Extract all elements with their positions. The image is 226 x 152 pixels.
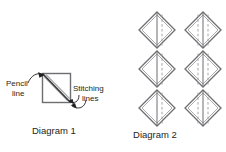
figure-root: Pencil line Stitching lines Diagram 1 — [0, 0, 226, 152]
diagram-2-group: Diagram 2 — [133, 12, 221, 140]
diagram-2-caption: Diagram 2 — [133, 129, 177, 140]
diamond-r1c1 — [139, 12, 175, 48]
diagram-1-caption: Diagram 1 — [32, 125, 76, 136]
stitching-label-line1: Stitching — [73, 84, 104, 93]
diamond-r3c1 — [139, 90, 175, 126]
diagrams-canvas: Pencil line Stitching lines Diagram 1 — [0, 0, 226, 152]
diamond-r1c2 — [185, 12, 221, 48]
pencil-label-line2: line — [12, 89, 25, 98]
diagram-1-group: Pencil line Stitching lines Diagram 1 — [6, 72, 104, 136]
pencil-label-line1: Pencil — [6, 79, 28, 88]
diamond-r3c2 — [185, 90, 221, 126]
diamond-r2c1 — [139, 51, 175, 87]
diamond-r2c2 — [185, 51, 221, 87]
stitching-label-line2: lines — [82, 94, 98, 103]
